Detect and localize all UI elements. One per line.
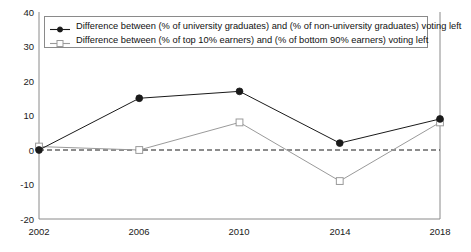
data-point-marker bbox=[236, 119, 243, 126]
y-tick-label: 0 bbox=[6, 145, 34, 156]
legend-label: Difference between (% of top 10% earners… bbox=[76, 35, 428, 46]
y-tick-label: 20 bbox=[6, 76, 34, 87]
y-tick-label: 10 bbox=[6, 110, 34, 121]
data-point-marker bbox=[336, 178, 343, 185]
y-tick-label: 40 bbox=[6, 7, 34, 18]
legend-label: Difference between (% of university grad… bbox=[76, 21, 461, 32]
x-tick-label: 2018 bbox=[420, 226, 460, 237]
series-top10-earners-line bbox=[36, 119, 444, 184]
x-tick-label: 2014 bbox=[320, 226, 360, 237]
x-tick-label: 2006 bbox=[119, 226, 159, 237]
y-tick-label: 30 bbox=[6, 41, 34, 52]
data-point-marker bbox=[136, 95, 143, 102]
y-tick-label: -20 bbox=[6, 214, 34, 225]
chart-container: 40 30 20 10 0 -10 -20 2002 2006 2010 201… bbox=[0, 0, 471, 252]
y-tick-label: -10 bbox=[6, 179, 34, 190]
data-point-marker bbox=[36, 147, 43, 154]
series-line bbox=[39, 122, 440, 181]
x-tick-label: 2010 bbox=[219, 226, 259, 237]
data-point-marker bbox=[336, 140, 343, 147]
data-point-marker bbox=[136, 147, 143, 154]
data-point-marker bbox=[236, 88, 243, 95]
x-tick-label: 2002 bbox=[19, 226, 59, 237]
data-point-marker bbox=[437, 116, 444, 123]
legend-marker-open-square-icon bbox=[49, 35, 71, 46]
chart-legend: Difference between (% of university grad… bbox=[44, 16, 428, 48]
legend-item-top10-earners: Difference between (% of top 10% earners… bbox=[49, 34, 423, 47]
legend-item-university-graduates: Difference between (% of university grad… bbox=[49, 20, 423, 33]
legend-marker-filled-circle-icon bbox=[49, 21, 71, 32]
